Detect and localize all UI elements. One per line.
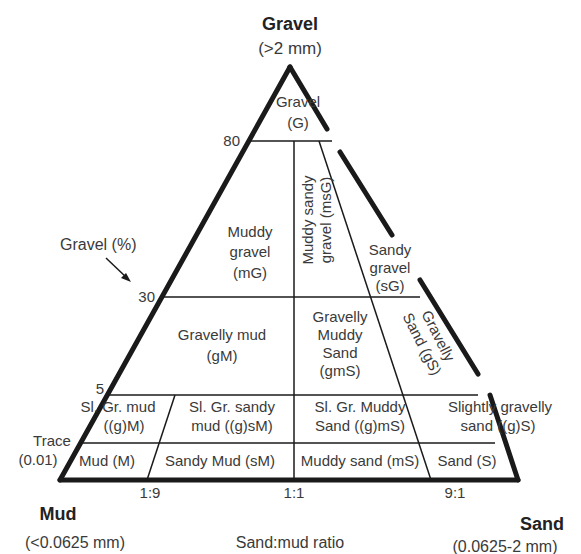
region-muddy-sand: Muddy sand (mS) — [301, 452, 419, 469]
tick-30: 30 — [138, 288, 155, 305]
ternary-diagram: Gravel (>2 mm) Mud (<0.0625 mm) Sand (0.… — [0, 0, 581, 554]
region-gravelly-mud: Gravelly mud — [178, 326, 266, 343]
mud-size-label: (<0.0625 mm) — [25, 534, 125, 551]
svg-text:gravel: gravel — [370, 259, 411, 276]
ratio-tick-1-9: 1:9 — [140, 484, 161, 501]
tick-80: 80 — [223, 132, 240, 149]
region-sl-gr-muddy-sand: Sl. Gr. Muddy — [315, 398, 406, 415]
svg-text:((g)M): ((g)M) — [104, 417, 145, 434]
svg-text:(sG): (sG) — [375, 277, 404, 294]
region-mud: Mud (M) — [79, 452, 135, 469]
region-sl-gr-mud: Sl. Gr. mud — [80, 398, 155, 415]
svg-text:(gM): (gM) — [207, 347, 238, 364]
sand-vertex-label: Sand — [520, 514, 564, 534]
svg-text:(G): (G) — [287, 114, 309, 131]
svg-text:Muddy sandy: Muddy sandy — [299, 175, 316, 265]
region-gravelly-muddy-sand: Gravelly — [312, 308, 368, 325]
trace-label: Trace — [33, 432, 71, 449]
svg-text:(gmS): (gmS) — [320, 362, 361, 379]
mud-vertex-label: Mud — [40, 504, 77, 524]
svg-text:Sand: Sand — [322, 344, 357, 361]
region-sl-gr-sandy-mud: Sl. Gr. sandy — [189, 398, 275, 415]
svg-text:Muddy: Muddy — [317, 326, 363, 343]
ratio-tick-1-1: 1:1 — [284, 484, 305, 501]
ratio-tick-9-1: 9:1 — [445, 484, 466, 501]
ratio-axis-label: Sand:mud ratio — [236, 534, 345, 551]
region-sandy-gravel: Sandy — [369, 241, 412, 258]
gravel-axis-label: Gravel (%) — [60, 236, 136, 253]
region-sand: Sand (S) — [437, 452, 496, 469]
region-muddy-gravel: Muddy — [227, 223, 273, 240]
region-sandy-mud: Sandy Mud (sM) — [165, 452, 275, 469]
gravel-vertex-label: Gravel — [262, 14, 318, 34]
svg-text:gravel: gravel — [230, 243, 271, 260]
svg-text:Sand ((g)mS): Sand ((g)mS) — [315, 417, 405, 434]
gravel-size-label: (>2 mm) — [258, 39, 322, 58]
region-gravelly-sand: Gravelly Sand (gS) — [400, 302, 462, 378]
tick-5: 5 — [96, 380, 104, 397]
arrow-icon — [106, 258, 127, 278]
svg-text:sand ((g)S): sand ((g)S) — [460, 417, 535, 434]
region-slightly-gravelly-sand: Slightly gravelly — [448, 398, 553, 415]
svg-text:gravel (msG): gravel (msG) — [317, 177, 334, 264]
region-muddy-sandy-gravel: Muddy sandy gravel (msG) — [299, 175, 334, 265]
svg-text:(mG): (mG) — [233, 264, 267, 281]
region-gravel: Gravel — [276, 93, 320, 110]
trace-value: (0.01) — [18, 451, 57, 468]
svg-text:mud ((g)sM): mud ((g)sM) — [191, 417, 273, 434]
sand-size-label: (0.0625-2 mm) — [453, 538, 558, 554]
